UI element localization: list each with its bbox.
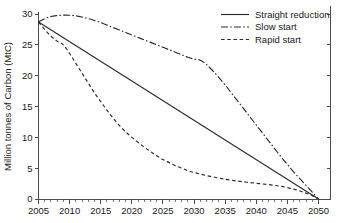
y-axis-tick-label: 25 bbox=[22, 39, 33, 50]
x-axis-tick-label: 2010 bbox=[59, 205, 80, 216]
x-axis-tick-label: 2035 bbox=[215, 205, 236, 216]
x-axis-tick-label: 2025 bbox=[152, 205, 173, 216]
x-axis-tick-label: 2020 bbox=[121, 205, 142, 216]
y-axis-tick-label: 20 bbox=[22, 70, 33, 81]
y-axis-tick-label: 30 bbox=[22, 8, 33, 19]
y-axis-title: Million tonnes of Carbon (MtC) bbox=[2, 42, 13, 171]
x-axis-tick-label: 2015 bbox=[90, 205, 111, 216]
legend-label-slow-start: Slow start bbox=[255, 21, 297, 32]
series-line-straight-reduction bbox=[39, 22, 319, 199]
legend-label-straight-reduction: Straight reduction bbox=[255, 9, 329, 20]
y-axis-tick-label: 5 bbox=[27, 163, 32, 174]
x-axis-tick-label: 2040 bbox=[246, 205, 267, 216]
x-axis-tick-label: 2030 bbox=[183, 205, 204, 216]
x-axis-tick-label: 2050 bbox=[308, 205, 329, 216]
y-axis-tick-label: 15 bbox=[22, 101, 33, 112]
chart-figure: 0510152025302005201020152020202520302035… bbox=[0, 0, 347, 223]
y-axis-tick-label: 10 bbox=[22, 132, 33, 143]
chart-legend: Straight reductionSlow startRapid start bbox=[221, 9, 329, 45]
x-axis-tick-label: 2045 bbox=[277, 205, 298, 216]
x-axis-tick-label: 2005 bbox=[28, 205, 49, 216]
y-axis-tick-label: 0 bbox=[27, 193, 32, 204]
legend-label-rapid-start: Rapid start bbox=[255, 34, 301, 45]
line-chart: 0510152025302005201020152020202520302035… bbox=[0, 0, 347, 223]
